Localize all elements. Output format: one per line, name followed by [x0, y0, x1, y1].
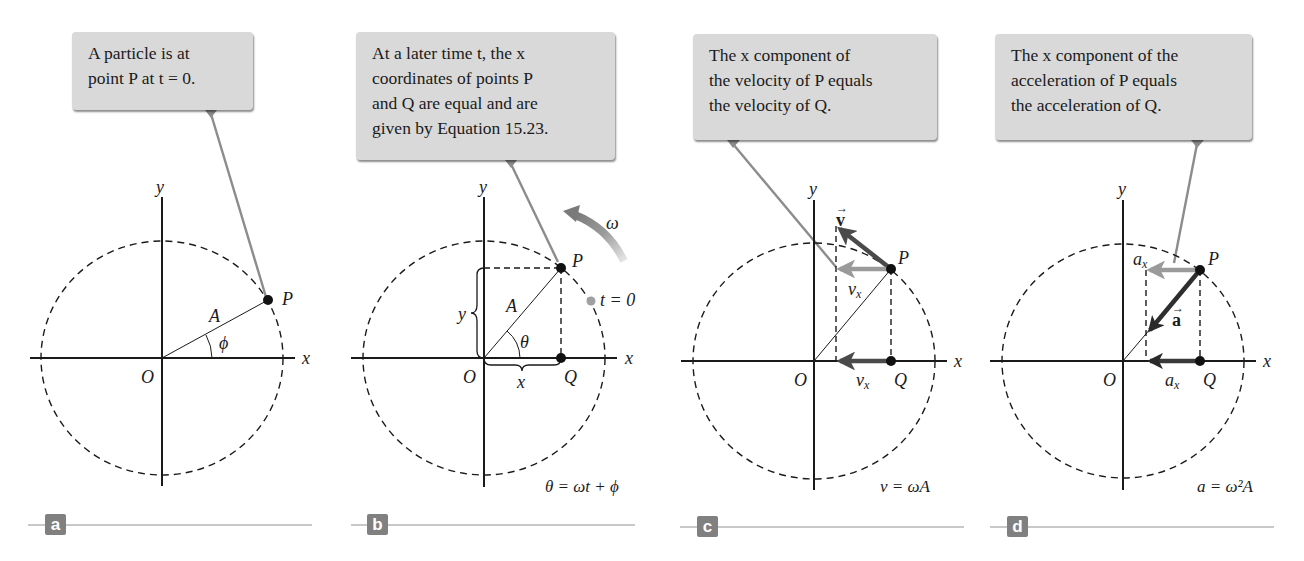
- amplitude-label: A: [209, 307, 220, 325]
- origin-label: O: [463, 368, 476, 386]
- amplitude-label: A: [506, 297, 517, 315]
- vx-label-top: vx: [848, 280, 861, 300]
- point-q: [886, 356, 896, 366]
- origin-label: O: [794, 371, 807, 389]
- x-axis-label: x: [1263, 352, 1271, 370]
- callout-line: the velocity of Q.: [709, 93, 923, 118]
- point-q-label: Q: [564, 368, 577, 386]
- point-p: [263, 295, 273, 305]
- point-q: [556, 353, 566, 363]
- point-p-label: P: [898, 249, 909, 267]
- velocity-vector-label: →v: [836, 211, 845, 229]
- velocity-vector: [840, 229, 891, 269]
- callout-line: acceleration of P equals: [1011, 68, 1238, 93]
- point-q-label: Q: [1203, 371, 1216, 389]
- omega-label: ω: [606, 214, 619, 232]
- initial-time-label: t = 0: [600, 291, 635, 309]
- callout-line: At a later time t, the x: [372, 41, 601, 66]
- ax-label-bottom: ax: [1165, 371, 1179, 391]
- y-axis-label: y: [809, 180, 817, 198]
- panel-c-label: c: [697, 516, 718, 537]
- callout-connector: [1174, 144, 1197, 263]
- x-axis-label: x: [954, 352, 962, 370]
- callout-line: point P at t = 0.: [88, 66, 239, 91]
- callout-panel-a: A particle is at point P at t = 0.: [72, 32, 253, 110]
- callout-panel-c: The x component of the velocity of P equ…: [693, 34, 937, 140]
- y-brace-label: y: [458, 305, 466, 323]
- callout-connector: [211, 114, 266, 297]
- y-axis-label: y: [1118, 180, 1126, 198]
- x-axis-label: x: [302, 349, 310, 367]
- callout-connector: [733, 144, 836, 267]
- panel-b-rule: [351, 524, 635, 526]
- panel-d-rule: [990, 526, 1274, 528]
- reference-circle-figure: A particle is at point P at t = 0. At a …: [0, 0, 1304, 561]
- point-q: [1195, 356, 1205, 366]
- point-p-label: P: [1208, 250, 1219, 268]
- point-p: [556, 263, 566, 273]
- origin-label: O: [1103, 371, 1116, 389]
- point-p-label: P: [572, 252, 583, 270]
- x-brace-label: x: [517, 373, 525, 391]
- origin-label: O: [141, 368, 154, 386]
- callout-line: A particle is at: [88, 41, 239, 66]
- callout-line: and Q are equal and are: [372, 91, 601, 116]
- panel-b: [351, 160, 624, 487]
- callout-line: the acceleration of Q.: [1011, 93, 1238, 118]
- acceleration-vector-label: →a: [1172, 311, 1181, 329]
- callout-line: The x component of the: [1011, 43, 1238, 68]
- phase-angle-label: ϕ: [219, 334, 228, 352]
- callout-line: given by Equation 15.23.: [372, 116, 601, 141]
- callout-connector: [511, 164, 558, 262]
- point-q-label: Q: [894, 371, 907, 389]
- panel-b-label: b: [367, 514, 388, 535]
- acceleration-equation: a = ω²A: [1197, 478, 1253, 495]
- callout-line: The x component of: [709, 43, 923, 68]
- x-axis-label: x: [625, 349, 633, 367]
- vx-label-bottom: vx: [856, 371, 869, 391]
- x-brace: [484, 358, 561, 371]
- panel-d-label: d: [1007, 516, 1028, 537]
- point-p: [886, 264, 896, 274]
- panel-c-rule: [680, 526, 964, 528]
- callout-panel-b: At a later time t, the x coordinates of …: [356, 32, 615, 160]
- angle-arc: [507, 331, 520, 358]
- callout-panel-d: The x component of the acceleration of P…: [995, 34, 1252, 140]
- y-axis-label: y: [156, 178, 164, 196]
- panel-a-rule: [28, 524, 312, 526]
- panel-a: [30, 110, 295, 486]
- ax-label-top: ax: [1133, 250, 1147, 270]
- theta-equation: θ = ωt + ϕ: [545, 478, 619, 495]
- y-axis-label: y: [479, 178, 487, 196]
- angle-arc: [206, 335, 212, 358]
- theta-label: θ: [520, 333, 529, 351]
- point-p-label: P: [282, 290, 293, 308]
- callout-line: the velocity of P equals: [709, 68, 923, 93]
- initial-point: [587, 297, 596, 306]
- point-p: [1195, 265, 1205, 275]
- y-brace: [471, 268, 484, 358]
- panel-a-label: a: [45, 514, 66, 535]
- velocity-equation: v = ωA: [880, 478, 930, 495]
- callout-line: coordinates of points P: [372, 66, 601, 91]
